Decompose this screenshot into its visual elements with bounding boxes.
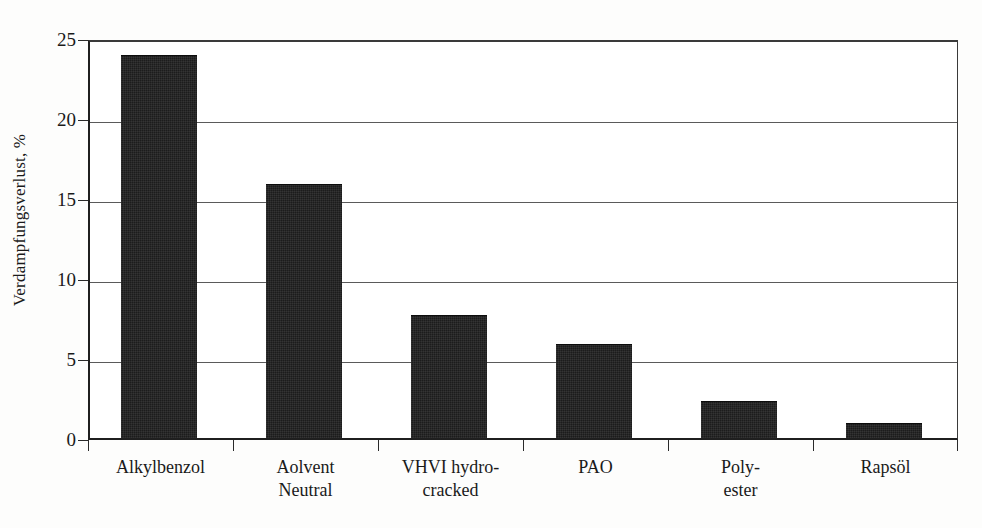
bar-vhvi-hydrocracked — [411, 315, 487, 438]
plot-area — [88, 40, 958, 440]
x-category-label-vhvi-hydrocracked: VHVI hydro- cracked — [378, 456, 523, 502]
bar-pao — [556, 344, 632, 438]
x-category-label-line-1: VHVI hydro- — [402, 457, 499, 477]
x-tick-mark-2 — [378, 440, 379, 451]
x-category-label-line-2: ester — [668, 479, 813, 502]
x-category-label-line-2: cracked — [378, 479, 523, 502]
x-tick-mark-6 — [957, 440, 958, 451]
y-tick-label-0: 0 — [40, 430, 76, 449]
x-tick-mark-5 — [813, 440, 814, 451]
bars-layer — [90, 42, 957, 438]
x-tick-mark-1 — [233, 440, 234, 451]
y-tick-label-5: 5 — [40, 350, 76, 369]
bar-aolvent-neutral — [266, 184, 342, 438]
x-tick-mark-0 — [88, 440, 89, 451]
y-tick-label-25: 25 — [40, 30, 76, 49]
bar-rapsoel — [846, 423, 922, 438]
y-tick-label-20: 20 — [40, 110, 76, 129]
x-category-label-rapsoel: Rapsöl — [813, 456, 958, 479]
x-category-label-pao: PAO — [523, 456, 668, 479]
x-category-label-alkylbenzol: Alkylbenzol — [88, 456, 233, 479]
x-category-label-line-1: Aolvent — [277, 457, 335, 477]
y-tick-label-10: 10 — [40, 270, 76, 289]
bar-alkylbenzol — [121, 55, 197, 438]
x-category-label-polyester: Poly- ester — [668, 456, 813, 502]
bar-polyester — [701, 401, 777, 438]
bar-chart: Verdampfungsverlust, % 25 20 15 10 5 0 A — [0, 0, 982, 528]
x-category-label-line-1: PAO — [578, 457, 612, 477]
x-tick-mark-4 — [668, 440, 669, 451]
x-category-label-line-2: Neutral — [233, 479, 378, 502]
x-category-label-aolvent-neutral: Aolvent Neutral — [233, 456, 378, 502]
x-tick-mark-3 — [523, 440, 524, 451]
x-category-label-line-1: Alkylbenzol — [116, 457, 205, 477]
x-category-label-line-1: Rapsöl — [860, 457, 910, 477]
x-category-label-line-1: Poly- — [721, 457, 760, 477]
y-axis-title: Verdampfungsverlust, % — [0, 0, 40, 440]
y-tick-label-15: 15 — [40, 190, 76, 209]
y-axis-title-text: Verdampfungsverlust, % — [10, 134, 30, 306]
